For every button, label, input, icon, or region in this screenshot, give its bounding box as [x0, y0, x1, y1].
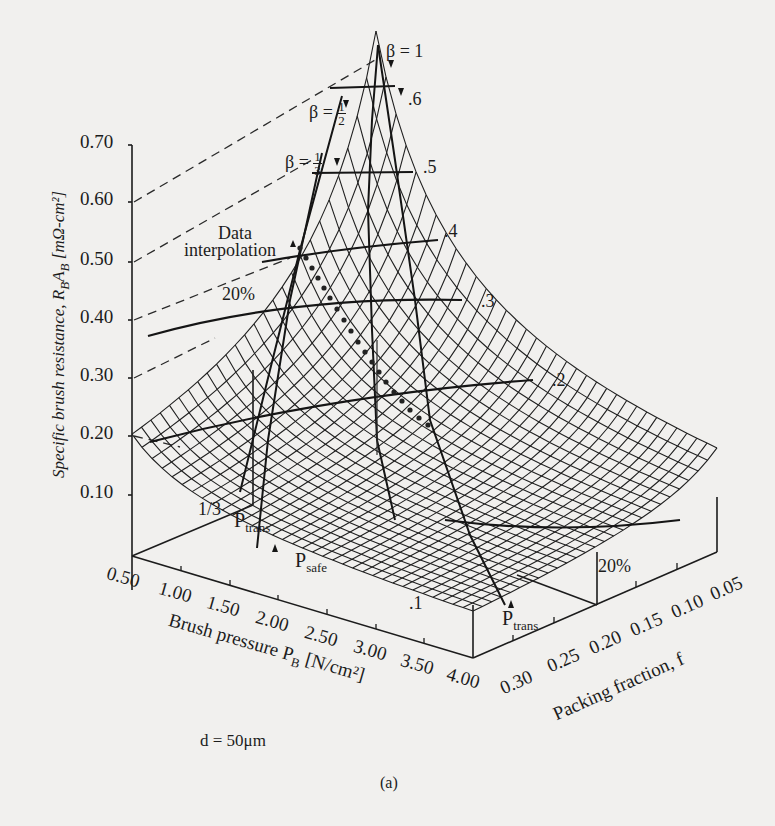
pct-20-right-label: 20%: [598, 557, 631, 575]
y-axis-label: Specific brush resistance, RBAB [mΩ-cm²]: [50, 191, 67, 478]
p-trans-left-sub: trans: [245, 520, 270, 535]
p-trans-right-sub: trans: [513, 618, 538, 633]
y-tick-0.10: 0.10: [80, 482, 113, 501]
y-tick-0.30: 0.30: [80, 365, 113, 384]
y-axis-label-units: [mΩ-cm²]: [49, 191, 68, 264]
surface-plot: [0, 0, 775, 826]
beta-half-prefix: β =: [309, 102, 333, 122]
p-safe-label: Psafe: [295, 550, 327, 570]
y-axis-label-text: Specific brush resistance, R: [49, 290, 68, 478]
y-axis-label-sub2: B: [57, 263, 72, 271]
p-trans-left-label: Ptrans: [234, 510, 270, 530]
beta-half-label: β = 12: [309, 100, 346, 127]
beta-half-den: 2: [337, 114, 346, 127]
y-tick-0.50: 0.50: [80, 249, 113, 268]
beta-third-num: 1: [313, 150, 322, 164]
y-tick-0.60: 0.60: [80, 189, 113, 208]
beta-1-label: β = 1: [386, 42, 423, 60]
contour-label-0.1: .1: [409, 594, 423, 612]
beta-third-fraction: 13: [313, 150, 322, 177]
contour-label-0.2: .2: [552, 371, 566, 389]
y-tick-0.70: 0.70: [80, 132, 113, 151]
beta-half-fraction: 12: [337, 100, 346, 127]
panel-label: (a): [380, 775, 398, 791]
p-trans-left-main: P: [234, 509, 245, 531]
p-trans-right-label: Ptrans: [502, 608, 538, 628]
data-interpolation-label-line2: interpolation: [184, 241, 276, 259]
beta-third-den: 3: [313, 164, 322, 177]
p-safe-main: P: [295, 549, 306, 571]
y-tick-0.20: 0.20: [80, 423, 113, 442]
contour-label-0.6: .6: [408, 90, 422, 108]
y-tick-0.40: 0.40: [80, 307, 113, 326]
y-axis: [128, 145, 132, 590]
beta-half-num: 1: [337, 100, 346, 114]
y-axis-label-A: A: [49, 271, 68, 281]
contour-label-0.4: .4: [444, 222, 458, 240]
contour-label-0.3: .3: [481, 292, 495, 310]
parameter-note: d = 50μm: [200, 732, 266, 749]
contour-lines: [148, 86, 680, 528]
y-axis-label-sub: B: [57, 282, 72, 290]
beta-third-label: β = 13: [285, 150, 322, 177]
one-third-label: 1/3: [198, 500, 221, 518]
contour-label-0.5: .5: [423, 158, 437, 176]
beta-third-prefix: β =: [285, 152, 309, 172]
p-trans-right-main: P: [502, 607, 513, 629]
pct-20-left-label: 20%: [222, 285, 255, 303]
p-safe-sub: safe: [306, 560, 327, 575]
